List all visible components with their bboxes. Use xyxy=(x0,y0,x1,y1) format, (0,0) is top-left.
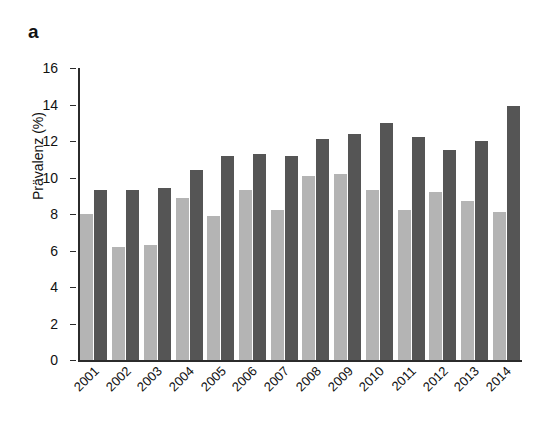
figure-panel-a: a Prävalenz (%) 0246810121416 2001200220… xyxy=(0,0,544,443)
y-axis-tick-labels: 0246810121416 xyxy=(0,0,78,443)
bar-dark-gray-series-2009 xyxy=(348,134,361,360)
y-tick-label: 8 xyxy=(14,207,58,221)
bar-light-gray-series-2009 xyxy=(334,174,347,360)
y-tick-mark xyxy=(70,287,76,288)
y-tick-mark xyxy=(70,251,76,252)
y-tick-mark xyxy=(70,324,76,325)
bar-dark-gray-series-2011 xyxy=(412,137,425,360)
y-tick-label: 0 xyxy=(14,353,58,367)
y-tick-mark xyxy=(70,214,76,215)
y-tick-mark xyxy=(70,68,76,69)
bar-dark-gray-series-2008 xyxy=(316,139,329,360)
bar-dark-gray-series-2014 xyxy=(507,106,520,360)
y-tick-label: 6 xyxy=(14,244,58,258)
bar-light-gray-series-2014 xyxy=(493,212,506,360)
y-tick-label: 4 xyxy=(14,280,58,294)
bar-light-gray-series-2008 xyxy=(302,176,315,360)
bar-light-gray-series-2005 xyxy=(207,216,220,360)
y-tick-label: 14 xyxy=(14,98,58,112)
bar-dark-gray-series-2013 xyxy=(475,141,488,360)
plot-area xyxy=(78,68,522,360)
x-axis-line xyxy=(78,360,522,362)
bar-dark-gray-series-2003 xyxy=(158,188,171,360)
x-axis-tick-labels: 2001200220032004200520062007200820092010… xyxy=(78,364,522,443)
bar-dark-gray-series-2012 xyxy=(443,150,456,360)
bar-dark-gray-series-2005 xyxy=(221,156,234,360)
bar-dark-gray-series-2006 xyxy=(253,154,266,360)
bar-dark-gray-series-2002 xyxy=(126,190,139,360)
bar-dark-gray-series-2004 xyxy=(190,170,203,360)
y-tick-mark xyxy=(70,360,76,361)
y-tick-mark xyxy=(70,178,76,179)
y-tick-label: 10 xyxy=(14,171,58,185)
y-tick-label: 12 xyxy=(14,134,58,148)
bar-light-gray-series-2012 xyxy=(429,192,442,360)
y-tick-mark xyxy=(70,105,76,106)
y-tick-label: 2 xyxy=(14,317,58,331)
bar-light-gray-series-2003 xyxy=(144,245,157,360)
bar-dark-gray-series-2010 xyxy=(380,123,393,360)
bars-layer xyxy=(78,68,522,360)
bar-light-gray-series-2010 xyxy=(366,190,379,360)
y-tick-label: 16 xyxy=(14,61,58,75)
bar-light-gray-series-2001 xyxy=(80,214,93,360)
bar-light-gray-series-2011 xyxy=(398,210,411,360)
bar-dark-gray-series-2001 xyxy=(94,190,107,360)
bar-light-gray-series-2007 xyxy=(271,210,284,360)
bar-light-gray-series-2002 xyxy=(112,247,125,360)
bar-light-gray-series-2004 xyxy=(176,198,189,360)
bar-dark-gray-series-2007 xyxy=(285,156,298,360)
bar-light-gray-series-2006 xyxy=(239,190,252,360)
bar-light-gray-series-2013 xyxy=(461,201,474,360)
y-tick-mark xyxy=(70,141,76,142)
